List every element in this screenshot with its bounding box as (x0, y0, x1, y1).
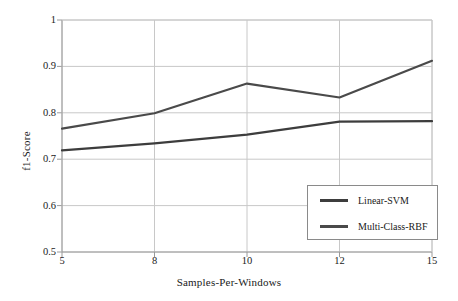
legend-item-multi-class-rbf: Multi-Class-RBF (308, 213, 437, 240)
legend: Linear-SVM Multi-Class-RBF (307, 185, 438, 240)
x-axis-title: Samples-Per-Windows (0, 276, 458, 288)
legend-item-label: Linear-SVM (358, 195, 409, 206)
legend-item-linear-svm: Linear-SVM (308, 187, 437, 214)
chart-container: f1-Score 0.50.60.70.80.91 58101215 Sampl… (0, 0, 458, 301)
legend-item-label: Multi-Class-RBF (358, 221, 427, 232)
plot-area (0, 0, 458, 301)
legend-color-swatch (320, 199, 348, 202)
legend-color-swatch (320, 225, 348, 228)
